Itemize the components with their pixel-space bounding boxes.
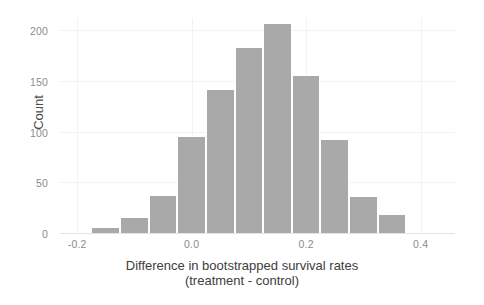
histogram-bar xyxy=(206,89,235,234)
x-tick-label-0.2: 0.2 xyxy=(299,238,314,250)
histogram-bar xyxy=(177,136,206,234)
histogram-bars xyxy=(60,18,455,234)
x-tick-label-0.4: 0.4 xyxy=(413,238,428,250)
histogram-bar xyxy=(320,139,349,234)
y-axis-tick-labels: 050100150200 xyxy=(0,18,54,234)
y-tick-label-200: 200 xyxy=(30,25,48,37)
x-axis-title-line2: (treatment - control) xyxy=(0,273,484,288)
y-tick-label-50: 50 xyxy=(36,177,48,189)
x-axis-title: Difference in bootstrapped survival rate… xyxy=(0,258,484,288)
histogram-bar xyxy=(349,196,378,234)
histogram-bar xyxy=(292,75,321,234)
plot-area xyxy=(60,18,455,234)
x-axis-title-line1: Difference in bootstrapped survival rate… xyxy=(126,258,358,273)
y-tick-label-0: 0 xyxy=(42,228,48,240)
x-tick-label-0.0: 0.0 xyxy=(184,238,199,250)
x-axis-line xyxy=(60,233,455,234)
x-tick-label--0.2: -0.2 xyxy=(68,238,87,250)
histogram-bar xyxy=(378,214,407,234)
histogram-figure: Count 050100150200 -0.20.00.20.4 Differe… xyxy=(0,0,484,305)
histogram-bar xyxy=(263,23,292,234)
y-tick-label-150: 150 xyxy=(30,76,48,88)
x-axis-tick-labels: -0.20.00.20.4 xyxy=(60,238,455,254)
histogram-bar xyxy=(120,217,149,234)
y-tick-label-100: 100 xyxy=(30,127,48,139)
histogram-bar xyxy=(235,47,264,234)
histogram-bar xyxy=(149,195,178,234)
